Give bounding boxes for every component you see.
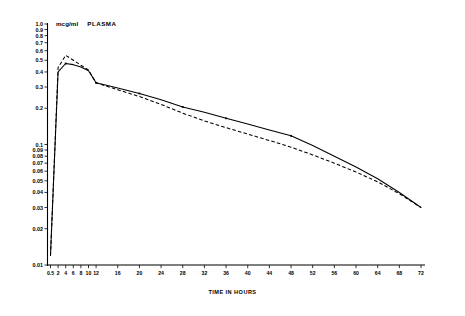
y-tick-label: 0.03: [33, 205, 44, 211]
solid-concentration-curve: [51, 64, 422, 256]
y-tick-label: 0.7: [36, 40, 44, 46]
x-tick-label: 48: [288, 270, 294, 276]
y-tick-label: 0.5: [36, 57, 44, 63]
x-tick-label: 44: [266, 270, 272, 276]
x-tick-label: 12: [93, 270, 99, 276]
x-tick-label: 0.5: [47, 270, 54, 276]
y-tick-label: 0.2: [36, 105, 44, 111]
x-tick-label: 72: [418, 270, 424, 276]
data-point-marker: [225, 117, 227, 119]
x-tick-label: 56: [331, 270, 337, 276]
x-axis-title: TIME IN HOURS: [0, 289, 465, 295]
plasma-concentration-chart: mcg/mlPLASMA 1.00.90.80.70.60.50.40.30.2…: [0, 0, 465, 316]
x-tick-label: 64: [375, 270, 381, 276]
x-tick-label: 2: [57, 270, 60, 276]
x-tick-label: 8: [79, 270, 82, 276]
data-point-marker: [95, 82, 97, 84]
x-tick-label: 28: [180, 270, 186, 276]
x-tick-label: 36: [223, 270, 229, 276]
x-tick-label: 4: [64, 270, 67, 276]
chart-plot-area: 1.00.90.80.70.60.50.40.30.20.10.090.080.…: [0, 0, 465, 316]
x-tick-label: 40: [245, 270, 251, 276]
data-point-marker: [65, 63, 67, 65]
y-tick-label: 0.08: [33, 153, 44, 159]
y-tick-label: 0.04: [33, 189, 44, 195]
y-tick-label: 0.05: [33, 178, 44, 184]
y-axis: 1.00.90.80.70.60.50.40.30.20.10.090.080.…: [33, 21, 48, 268]
x-axis: 0.52468101216202428323640444852566064687…: [47, 265, 425, 276]
x-tick-label: 6: [72, 270, 75, 276]
x-tick-label: 20: [137, 270, 143, 276]
y-tick-label: 0.6: [36, 48, 44, 54]
x-tick-label: 68: [396, 270, 402, 276]
y-tick-label: 0.09: [33, 147, 44, 153]
data-curves: [51, 55, 422, 255]
x-tick-label: 32: [202, 270, 208, 276]
y-tick-label: 0.8: [36, 33, 44, 39]
data-point-marker: [290, 135, 292, 137]
x-tick-label: 60: [353, 270, 359, 276]
y-tick-label: 0.3: [36, 84, 44, 90]
x-tick-label: 52: [310, 270, 316, 276]
y-tick-label: 0.4: [36, 69, 44, 75]
y-tick-label: 0.9: [36, 27, 44, 33]
x-tick-label: 16: [115, 270, 121, 276]
y-tick-label: 0.01: [33, 262, 44, 268]
data-point-marker: [182, 106, 184, 108]
y-tick-label: 0.06: [33, 168, 44, 174]
y-tick-label: 0.07: [33, 160, 44, 166]
x-tick-label: 10: [86, 270, 92, 276]
y-tick-label: 0.02: [33, 226, 44, 232]
x-tick-label: 24: [158, 270, 164, 276]
data-point-marker: [139, 93, 141, 95]
